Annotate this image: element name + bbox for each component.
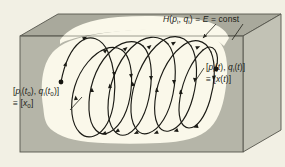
initial-state-point bbox=[59, 80, 64, 85]
hamiltonian-equals-1: = bbox=[193, 14, 203, 24]
initial-state-line-2: ≡ [x0] bbox=[13, 98, 59, 110]
initial-state-line-1: [pi(t0), qi(t0)] bbox=[13, 86, 59, 98]
initial-sub-q-i: i bbox=[43, 90, 44, 97]
initial-sub-t-0-1: 0 bbox=[27, 90, 31, 97]
final-x-bracket-close: ] bbox=[229, 74, 231, 84]
final-state-line-2: ≡ [x(t)] bbox=[206, 74, 245, 85]
hamiltonian-equals-const: = const bbox=[208, 14, 239, 24]
box-right-face bbox=[243, 14, 281, 152]
final-bracket-close: ] bbox=[243, 62, 245, 72]
hamiltonian-sub-p-i: i bbox=[177, 18, 178, 25]
final-equiv-sign: ≡ bbox=[206, 74, 214, 84]
initial-sub-x-0: 0 bbox=[27, 102, 31, 109]
final-sub-p-i: i bbox=[213, 66, 214, 73]
hamiltonian-label: H(pi, qi) = E = const bbox=[163, 14, 239, 26]
final-state-line-1: [pi(t), qi(t)] bbox=[206, 62, 245, 74]
final-state-label: [pi(t), qi(t)] ≡ [x(t)] bbox=[206, 62, 245, 84]
initial-equiv-sign: ≡ bbox=[13, 98, 21, 108]
initial-sub-t-0-2: 0 bbox=[50, 90, 54, 97]
hamiltonian-label-line: H(pi, qi) = E = const bbox=[163, 14, 239, 26]
initial-state-label: [pi(t0), qi(t0)] ≡ [x0] bbox=[13, 86, 59, 109]
hamiltonian-sub-q-i: i bbox=[188, 18, 189, 25]
initial-x-bracket-close: ] bbox=[31, 98, 33, 108]
initial-bracket-close: ] bbox=[57, 86, 59, 96]
initial-sub-p-i: i bbox=[20, 90, 21, 97]
phase-space-figure: H(pi, qi) = E = const [pi(t0), qi(t0)] ≡… bbox=[0, 0, 285, 167]
